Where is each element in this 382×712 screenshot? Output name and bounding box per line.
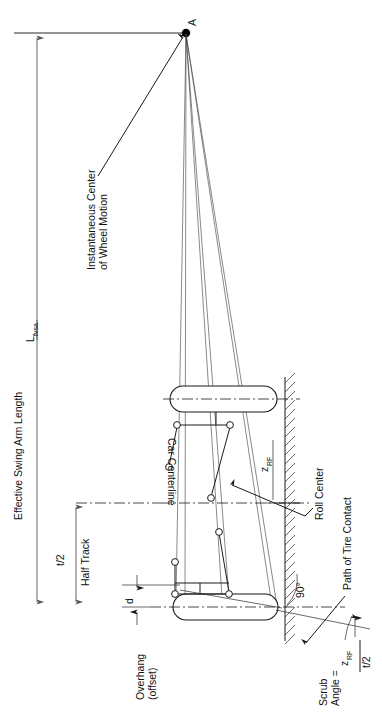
label-scrub-line1: Scrub [317,678,329,706]
label-scrub-denominator: t/2 [360,656,372,668]
label-path-of-tire-contact: Path of Tire Contact [341,497,353,590]
label-effective-swing-arm-subscript: fvsa [32,323,39,336]
lower-wheel [150,594,345,620]
diagram-canvas: A Effective Swing Arm Length L fvsa Inst… [0,0,382,712]
label-instantaneous-center-line2: of Wheel Motion [97,194,109,270]
label-roll-center-height-subscript: RF [266,457,273,466]
label-right-angle: 90° [294,582,306,598]
label-half-track: Half Track [79,538,91,586]
label-scrub-numerator-subscript: RF [346,651,353,660]
label-scrub-numerator-symbol: z [338,661,350,666]
label-instantaneous-center-line1: Instantaneous Center [85,169,97,270]
label-half-track-symbol: t/2 [54,554,66,566]
path-of-tire-contact-leader [306,596,345,643]
label-roll-center: Roll Center [313,467,325,520]
label-point-a: A [186,19,198,26]
label-car-centerline: Car Centerline [166,438,178,506]
label-overhang-line1: Overhang [134,654,146,700]
suspension-geometry-diagram: A Effective Swing Arm Length L fvsa Inst… [0,0,382,712]
lower-linkage-joints [172,529,233,598]
scrub-angle-arc [345,616,355,640]
swing-arm-construction-lines [176,34,277,606]
label-overhang-line2: (offset) [146,668,158,700]
instant-center-leader [98,37,183,176]
label-scrub-line2: Angle = [329,670,341,706]
label-overhang-symbol: d [123,598,135,604]
roll-center-leader [232,485,313,516]
label-effective-swing-arm: Effective Swing Arm Length [12,392,24,520]
label-roll-center-height-symbol: z [258,467,270,472]
upper-wheel [163,386,300,412]
